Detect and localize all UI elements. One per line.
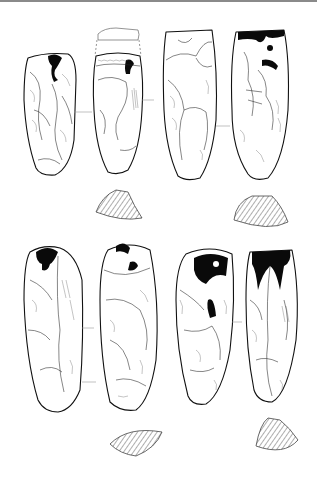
- axe-4: [232, 30, 289, 179]
- axe-6: [100, 243, 157, 410]
- section-3: [110, 431, 162, 457]
- section-1: [96, 190, 142, 219]
- axe-1: [24, 54, 76, 176]
- axe-7: [176, 249, 234, 404]
- section-2: [234, 196, 288, 227]
- axe-8: [246, 250, 297, 402]
- section-4: [256, 418, 298, 450]
- axe-3: [163, 30, 216, 180]
- axe-2: [93, 28, 142, 174]
- illustration-plate: [0, 0, 317, 478]
- axe-5: [24, 247, 83, 412]
